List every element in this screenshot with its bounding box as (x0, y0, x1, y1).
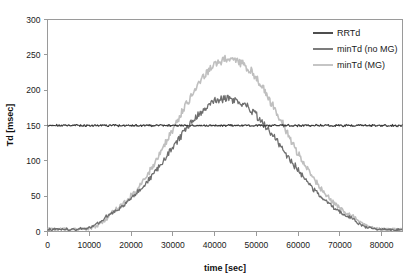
y-tick-label: 0 (36, 227, 41, 237)
y-axis-ticks: 050100150200250300 (26, 15, 47, 237)
chart-figure: 050100150200250300 010000200003000040000… (0, 0, 416, 277)
y-tick-label: 300 (26, 15, 40, 25)
legend-label: minTd (no MG) (337, 44, 398, 54)
x-tick-label: 80000 (370, 240, 394, 250)
x-axis-ticks: 0100002000030000400005000060000700008000… (45, 232, 394, 250)
x-tick-label: 60000 (286, 240, 310, 250)
data-series-line (48, 124, 403, 126)
data-series-group (48, 56, 403, 231)
y-tick-label: 100 (26, 156, 40, 166)
data-series-line (48, 95, 403, 230)
x-tick-label: 30000 (161, 240, 185, 250)
x-tick-label: 40000 (203, 240, 227, 250)
x-tick-label: 0 (45, 240, 50, 250)
y-tick-label: 250 (26, 50, 40, 60)
y-tick-label: 50 (31, 191, 41, 201)
y-axis-title: Td [msec] (5, 104, 15, 147)
x-tick-label: 50000 (245, 240, 269, 250)
legend-label: minTd (MG) (337, 60, 385, 70)
data-series-line (48, 56, 403, 231)
chart-plot-area: 050100150200250300 010000200003000040000… (0, 0, 416, 277)
chart-legend: RRTdminTd (no MG)minTd (MG) (313, 28, 398, 70)
y-tick-label: 200 (26, 85, 40, 95)
y-tick-label: 150 (26, 121, 40, 131)
x-tick-label: 70000 (328, 240, 352, 250)
x-axis-title: time [sec] (204, 263, 246, 273)
x-tick-label: 10000 (77, 240, 101, 250)
legend-label: RRTd (337, 28, 360, 38)
x-tick-label: 20000 (119, 240, 143, 250)
